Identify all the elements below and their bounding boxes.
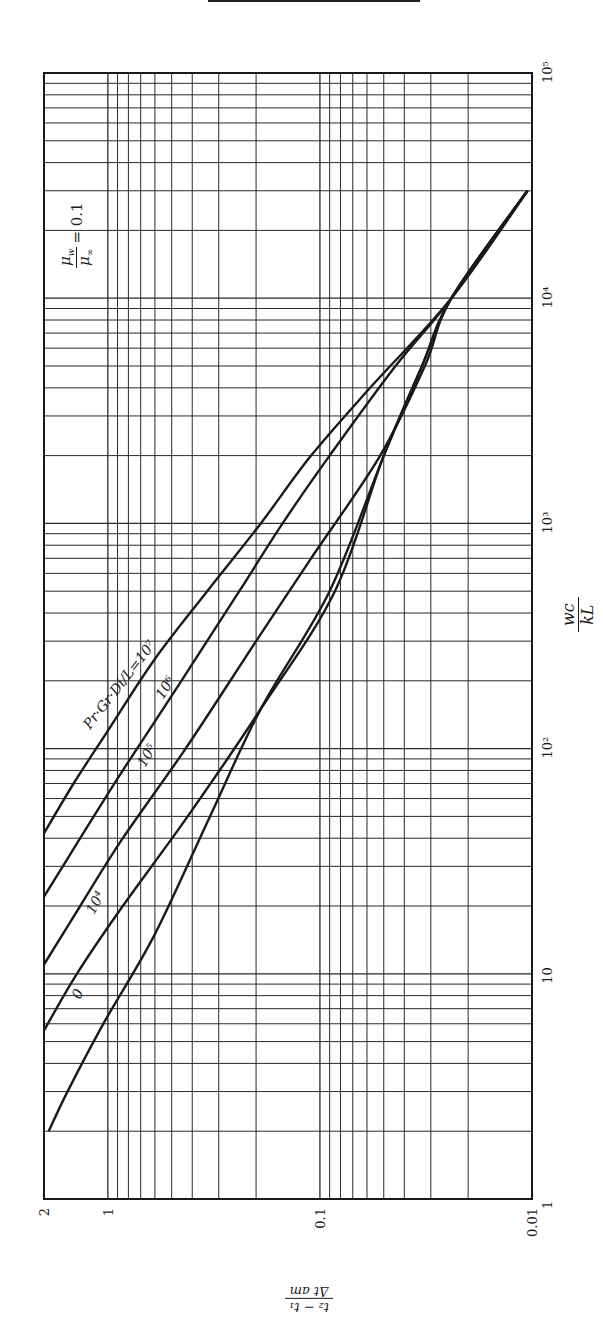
curve-label: 10⁴ xyxy=(83,888,108,917)
annotations: Pr·Gr·Di/L=10⁷10⁶10⁵10⁴0 xyxy=(68,637,178,1001)
x-tick-label: 1 xyxy=(540,1201,555,1209)
curve-label: 0 xyxy=(68,986,86,1001)
curve-prgrdil10 xyxy=(44,191,528,834)
grid-lines xyxy=(44,73,532,1199)
curve-10 xyxy=(44,191,528,897)
y-tick-label: 1 xyxy=(101,1208,116,1216)
x-tick-label: 10³ xyxy=(540,512,555,534)
y-tick-label: 2 xyxy=(37,1208,52,1216)
curve-10 xyxy=(44,191,528,1031)
data-curves xyxy=(44,191,528,1131)
y-tick-label: 0.1 xyxy=(313,1208,328,1229)
curve-0 xyxy=(49,191,528,1131)
y-axis-label: t₂ − t₁ Δt am xyxy=(285,1283,333,1314)
x-tick-label: 10⁴ xyxy=(540,286,555,308)
x-tick-label: 10⁵ xyxy=(540,61,555,83)
y-tick-label: 0.01 xyxy=(525,1208,540,1237)
curve-label: 10⁵ xyxy=(134,741,160,770)
x-tick-label: 10² xyxy=(540,737,555,759)
parameter-annotation: μw μ∞ = 0.1 xyxy=(58,202,95,268)
curve-label: 10⁶ xyxy=(152,673,178,702)
curve-label: Pr·Gr·Di/L=10⁷ xyxy=(79,637,159,733)
chart-plot: 11010²10³10⁴10⁵210.10.01 Pr·Gr·Di/L=10⁷1… xyxy=(0,0,603,1339)
curve-10 xyxy=(44,191,528,965)
x-tick-label: 10 xyxy=(540,967,555,984)
x-axis-label: wc kL xyxy=(560,597,596,632)
